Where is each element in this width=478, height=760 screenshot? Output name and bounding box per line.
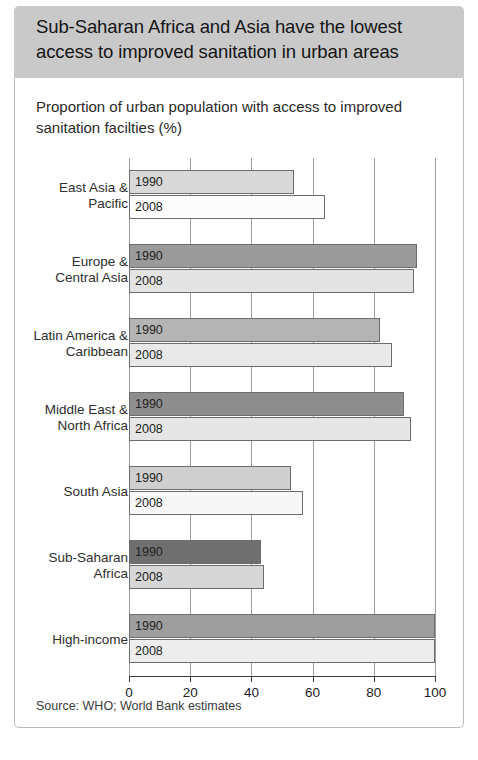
bar-year-label: 2008 [135, 570, 163, 584]
category-label-line: Middle East & [15, 402, 128, 419]
category-label: Sub-SaharanAfrica [15, 550, 128, 583]
bar-year-label: 2008 [135, 200, 163, 214]
bar-year-label: 1990 [135, 323, 163, 337]
bar-1990[interactable]: 1990 [129, 392, 404, 416]
x-tick-100 [435, 676, 436, 682]
category-label: Latin America &Caribbean [15, 328, 128, 361]
bar-group: Sub-SaharanAfrica19902008 [15, 528, 465, 602]
group-plot-area: 19902008 [129, 158, 435, 232]
group-plot-area: 19902008 [129, 380, 435, 454]
bar-year-label: 1990 [135, 175, 163, 189]
plot-area: East Asia &Pacific19902008Europe &Centra… [15, 158, 465, 676]
x-tick-label-20: 20 [183, 685, 198, 700]
bar-group: High-income19902008 [15, 602, 465, 676]
chart-header-band: Sub-Saharan Africa and Asia have the low… [14, 6, 464, 78]
bar-1990[interactable]: 1990 [129, 244, 417, 268]
bar-year-label: 1990 [135, 397, 163, 411]
category-label-line: Latin America & [15, 328, 128, 345]
bar-1990[interactable]: 1990 [129, 466, 291, 490]
chart-subtitle: Proportion of urban population with acce… [36, 96, 447, 138]
bar-1990[interactable]: 1990 [129, 540, 261, 564]
chart-title: Sub-Saharan Africa and Asia have the low… [36, 14, 450, 64]
bar-group: East Asia &Pacific19902008 [15, 158, 465, 232]
source-note: Source: WHO; World Bank estimates [36, 699, 241, 713]
bar-year-label: 2008 [135, 274, 163, 288]
x-axis-ticks [129, 676, 435, 683]
category-label-line: Sub-Saharan [15, 550, 128, 567]
category-label-line: South Asia [15, 484, 128, 501]
category-label-line: Europe & [15, 254, 128, 271]
category-label-line: Caribbean [15, 344, 128, 361]
category-label-line: Africa [15, 566, 128, 583]
chart-card: Sub-Saharan Africa and Asia have the low… [14, 6, 464, 728]
bar-year-label: 1990 [135, 619, 163, 633]
x-tick-60 [313, 676, 314, 682]
bar-year-label: 1990 [135, 249, 163, 263]
category-label: High-income [15, 632, 128, 649]
bar-year-label: 1990 [135, 471, 163, 485]
bar-group: Europe &Central Asia19902008 [15, 232, 465, 306]
bar-2008[interactable]: 2008 [129, 343, 392, 367]
category-label: South Asia [15, 484, 128, 501]
x-tick-label-80: 80 [366, 685, 381, 700]
category-label-line: High-income [15, 632, 128, 649]
category-label-line: East Asia & [15, 180, 128, 197]
bar-1990[interactable]: 1990 [129, 614, 435, 638]
bar-2008[interactable]: 2008 [129, 565, 264, 589]
x-tick-20 [190, 676, 191, 682]
bar-year-label: 1990 [135, 545, 163, 559]
bar-1990[interactable]: 1990 [129, 318, 380, 342]
category-label: Middle East &North Africa [15, 402, 128, 435]
x-tick-label-40: 40 [244, 685, 259, 700]
bar-2008[interactable]: 2008 [129, 417, 411, 441]
x-tick-80 [374, 676, 375, 682]
bar-2008[interactable]: 2008 [129, 491, 303, 515]
x-tick-40 [251, 676, 252, 682]
category-label: Europe &Central Asia [15, 254, 128, 287]
category-label: East Asia &Pacific [15, 180, 128, 213]
chart-body-panel: Proportion of urban population with acce… [14, 78, 464, 728]
bar-2008[interactable]: 2008 [129, 639, 435, 663]
bar-year-label: 2008 [135, 496, 163, 510]
group-plot-area: 19902008 [129, 454, 435, 528]
bar-group: South Asia19902008 [15, 454, 465, 528]
x-tick-label-0: 0 [125, 685, 133, 700]
bar-1990[interactable]: 1990 [129, 170, 294, 194]
category-label-line: North Africa [15, 418, 128, 435]
bar-group: Middle East &North Africa19902008 [15, 380, 465, 454]
bar-2008[interactable]: 2008 [129, 269, 414, 293]
category-label-line: Central Asia [15, 270, 128, 287]
category-label-line: Pacific [15, 196, 128, 213]
group-plot-area: 19902008 [129, 602, 435, 676]
x-tick-label-100: 100 [424, 685, 447, 700]
x-tick-0 [129, 676, 130, 682]
bar-group: Latin America &Caribbean19902008 [15, 306, 465, 380]
group-plot-area: 19902008 [129, 528, 435, 602]
bar-year-label: 2008 [135, 348, 163, 362]
x-tick-label-60: 60 [305, 685, 320, 700]
bar-2008[interactable]: 2008 [129, 195, 325, 219]
group-plot-area: 19902008 [129, 306, 435, 380]
group-plot-area: 19902008 [129, 232, 435, 306]
bar-year-label: 2008 [135, 422, 163, 436]
bar-year-label: 2008 [135, 644, 163, 658]
